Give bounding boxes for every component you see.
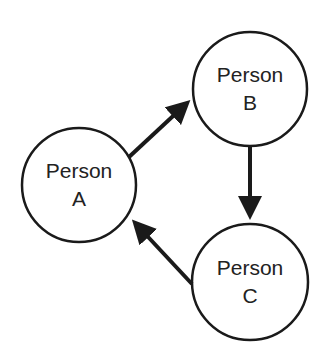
node-a-label: Person A	[24, 157, 134, 213]
edge-a-to-b-arrow	[129, 104, 186, 157]
node-c-line2: C	[195, 282, 305, 310]
edge-c-to-a-arrow	[136, 224, 192, 284]
node-b-line2: B	[195, 89, 305, 117]
node-c-label: Person C	[195, 254, 305, 310]
node-b-line1: Person	[195, 61, 305, 89]
node-a-line1: Person	[24, 157, 134, 185]
node-b-label: Person B	[195, 61, 305, 117]
node-c-line1: Person	[195, 254, 305, 282]
node-a-line2: A	[24, 185, 134, 213]
